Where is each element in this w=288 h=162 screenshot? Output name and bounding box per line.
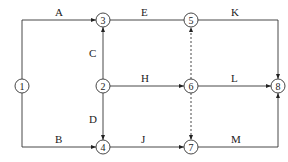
label-D: D [89,113,97,125]
label-B: B [55,133,62,145]
label-C: C [89,47,96,59]
arrow-A [22,20,96,79]
node-7-label: 7 [189,142,194,153]
node-2-label: 2 [101,81,106,92]
node-1-label: 1 [20,81,25,92]
node-4-label: 4 [101,142,106,153]
node-8-label: 8 [276,81,281,92]
arrow-K [198,20,278,79]
label-H: H [141,72,149,84]
label-E: E [141,6,148,18]
label-J: J [141,133,146,145]
label-L: L [231,72,238,84]
node-6-label: 6 [189,81,194,92]
node-3-label: 3 [101,15,106,26]
node-5-label: 5 [189,15,194,26]
label-A: A [55,6,63,18]
network-diagram: A B C D E H J K L M 1 2 3 4 5 6 7 8 [0,0,288,162]
label-M: M [231,133,241,145]
label-K: K [231,6,239,18]
